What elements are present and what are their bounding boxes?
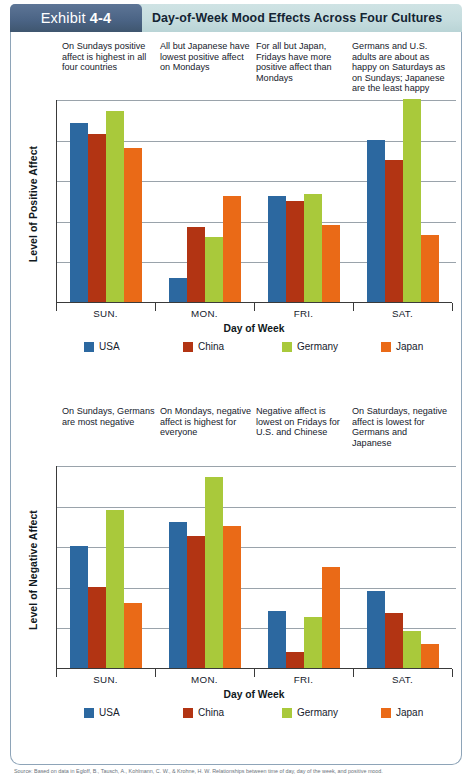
x-axis-tick	[452, 669, 453, 677]
legend-swatch-germany-icon	[282, 708, 292, 718]
legend-negative: USAChinaGermanyJapan	[56, 707, 452, 721]
annotation-saturday-positive: Germans and U.S. adults are about as hap…	[352, 41, 454, 94]
x-axis-label-sat: SAT.	[368, 308, 438, 319]
bar-china	[187, 227, 205, 302]
bar-usa	[70, 546, 88, 668]
bar-china	[88, 587, 106, 668]
x-axis-label-sun: SUN.	[71, 674, 141, 685]
bar-japan	[421, 235, 439, 302]
legend-swatch-germany-icon	[282, 342, 292, 352]
annotation-saturday-negative: On Saturdays, negative affect is lowest …	[352, 406, 454, 448]
legend-label: China	[198, 341, 224, 352]
annotations-positive: On Sundays positive affect is highest in…	[62, 41, 454, 94]
x-axis-label-mon: MON.	[170, 674, 240, 685]
bar-usa	[367, 591, 385, 668]
exhibit-page: Exhibit 4-4 Day-of-Week Mood Effects Acr…	[0, 0, 472, 778]
exhibit-title: Day-of-Week Mood Effects Across Four Cul…	[152, 4, 442, 32]
y-axis-label-negative-wrap: Level of Negative Affect	[28, 470, 44, 670]
bar-group	[70, 466, 142, 668]
legend-item-germany[interactable]: Germany	[282, 707, 338, 718]
annotation-sunday-positive: On Sundays positive affect is highest in…	[62, 41, 160, 94]
annotation-friday-negative: Negative affect is lowest on Fridays for…	[256, 406, 352, 448]
annotation-monday-positive: All but Japanese have lowest positive af…	[160, 41, 256, 94]
bar-usa	[268, 196, 286, 302]
legend-item-usa[interactable]: USA	[84, 707, 120, 718]
y-axis-label-negative: Level of Negative Affect	[26, 470, 40, 670]
bar-germany	[304, 194, 322, 302]
legend-swatch-china-icon	[183, 708, 193, 718]
bar-group	[70, 100, 142, 302]
bar-group	[367, 466, 439, 668]
bar-japan	[223, 196, 241, 302]
bar-china	[88, 134, 106, 302]
legend-positive: USAChinaGermanyJapan	[56, 341, 452, 355]
legend-label: Germany	[297, 707, 338, 718]
legend-label: Japan	[396, 707, 423, 718]
bar-germany	[205, 477, 223, 668]
bar-germany	[106, 510, 124, 668]
bar-usa	[268, 611, 286, 668]
bar-china	[286, 652, 304, 668]
bar-usa	[169, 522, 187, 668]
bar-usa	[367, 140, 385, 302]
y-axis-label-positive: Level of Positive Affect	[26, 104, 40, 304]
x-axis-labels-negative: SUN.MON.FRI.SAT.	[56, 674, 452, 688]
legend-label: Japan	[396, 341, 423, 352]
legend-swatch-usa-icon	[84, 708, 94, 718]
legend-item-usa[interactable]: USA	[84, 341, 120, 352]
bar-japan	[322, 225, 340, 302]
y-axis-label-positive-wrap: Level of Positive Affect	[28, 104, 44, 304]
legend-label: Germany	[297, 341, 338, 352]
bar-germany	[106, 111, 124, 302]
bar-group	[367, 100, 439, 302]
annotation-sunday-negative: On Sundays, Germans are most negative	[62, 406, 160, 448]
plot-area-positive	[56, 100, 452, 303]
legend-label: USA	[99, 707, 120, 718]
x-axis-labels-positive: SUN.MON.FRI.SAT.	[56, 308, 452, 322]
bar-group	[169, 466, 241, 668]
legend-swatch-usa-icon	[84, 342, 94, 352]
bar-group	[268, 466, 340, 668]
bar-germany	[403, 99, 421, 302]
exhibit-number: 4-4	[90, 10, 112, 26]
annotation-monday-negative: On Mondays, negative affect is highest f…	[160, 406, 256, 448]
bar-japan	[124, 148, 142, 302]
bar-germany	[403, 631, 421, 668]
legend-item-china[interactable]: China	[183, 707, 224, 718]
x-axis-label-fri: FRI.	[269, 308, 339, 319]
bar-group	[169, 100, 241, 302]
legend-swatch-japan-icon	[381, 708, 391, 718]
legend-item-japan[interactable]: Japan	[381, 707, 423, 718]
exhibit-badge: Exhibit 4-4	[10, 4, 142, 32]
bar-germany	[205, 237, 223, 302]
bar-germany	[304, 617, 322, 668]
x-axis-tick	[452, 303, 453, 311]
bar-china	[385, 613, 403, 668]
bar-china	[385, 160, 403, 302]
annotation-friday-positive: For all but Japan, Fridays have more pos…	[256, 41, 352, 94]
annotations-negative: On Sundays, Germans are most negative On…	[62, 406, 454, 448]
legend-item-germany[interactable]: Germany	[282, 341, 338, 352]
x-axis-label-sat: SAT.	[368, 674, 438, 685]
exhibit-word: Exhibit	[41, 10, 86, 26]
source-note: Source: Based on data in Egloff, B., Tau…	[14, 768, 464, 775]
legend-label: USA	[99, 341, 120, 352]
bar-japan	[421, 644, 439, 668]
bar-group	[268, 100, 340, 302]
x-axis-label-mon: MON.	[170, 308, 240, 319]
bar-china	[187, 536, 205, 668]
legend-swatch-china-icon	[183, 342, 193, 352]
bar-japan	[223, 526, 241, 668]
bar-usa	[70, 123, 88, 302]
x-axis-title-positive: Day of Week	[56, 323, 452, 334]
plot-area-negative	[56, 466, 452, 669]
bar-japan	[124, 603, 142, 668]
legend-item-japan[interactable]: Japan	[381, 341, 423, 352]
bar-usa	[169, 278, 187, 302]
legend-item-china[interactable]: China	[183, 341, 224, 352]
x-axis-label-sun: SUN.	[71, 308, 141, 319]
x-axis-title-negative: Day of Week	[56, 689, 452, 700]
legend-swatch-japan-icon	[381, 342, 391, 352]
bar-japan	[322, 567, 340, 669]
exhibit-header: Exhibit 4-4 Day-of-Week Mood Effects Acr…	[0, 4, 472, 34]
